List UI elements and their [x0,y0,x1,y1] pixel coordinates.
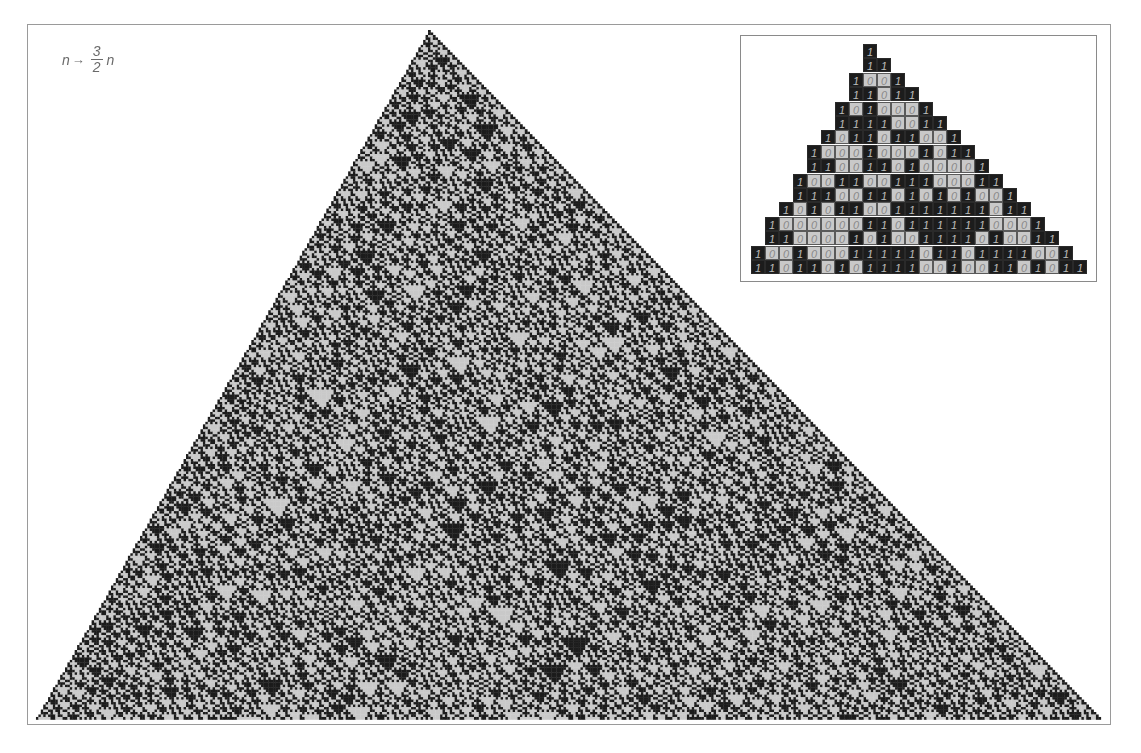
inset-digit-cell: 1 [989,260,1003,274]
inset-digit-cell: 0 [877,202,891,216]
formula-fraction: 3 2 [91,44,103,75]
inset-digit-cell: 1 [905,202,919,216]
inset-digit-cell: 1 [905,188,919,202]
inset-digit-cell: 0 [933,145,947,159]
inset-digit-cell: 0 [863,202,877,216]
inset-digit-cell: 0 [947,188,961,202]
inset-digit-cell: 1 [877,116,891,130]
inset-digit-cell: 1 [891,260,905,274]
inset-digit-cell: 1 [751,260,765,274]
inset-digit-cell: 1 [891,174,905,188]
inset-digit-cell: 1 [933,246,947,260]
inset-digit-cell: 1 [975,202,989,216]
inset-digit-cell: 1 [947,130,961,144]
inset-digit-cell: 0 [905,116,919,130]
inset-digit-cell: 0 [821,145,835,159]
inset-digit-cell: 1 [863,246,877,260]
inset-digit-cell: 0 [933,159,947,173]
inset-digit-cell: 1 [933,217,947,231]
inset-digit-cell: 1 [1003,202,1017,216]
inset-digit-cell: 0 [1045,260,1059,274]
inset-digit-cell: 1 [863,217,877,231]
inset-digit-cell: 1 [975,217,989,231]
inset-digit-cell: 1 [947,145,961,159]
inset-digit-cell: 1 [835,202,849,216]
inset-digit-cell: 0 [961,159,975,173]
inset-digit-cell: 1 [905,130,919,144]
inset-digit-cell: 0 [877,102,891,116]
inset-digit-cell: 1 [877,58,891,72]
inset-digit-cell: 0 [919,159,933,173]
inset-digit-cell: 0 [905,102,919,116]
inset-digit-cell: 0 [1003,217,1017,231]
inset-digit-cell: 1 [779,231,793,245]
inset-digit-cell: 1 [877,260,891,274]
inset-digit-cell: 1 [1073,260,1087,274]
inset-digit-cell: 0 [835,130,849,144]
inset-digit-cell: 1 [779,202,793,216]
inset-digit-cell: 1 [751,246,765,260]
inset-digit-cell: 1 [919,217,933,231]
inset-digit-cell: 0 [1017,231,1031,245]
inset-digit-cell: 1 [989,246,1003,260]
inset-digit-cell: 0 [947,159,961,173]
inset-digit-cell: 1 [1003,260,1017,274]
inset-digit-cell: 1 [1059,260,1073,274]
inset-digit-cell: 0 [961,260,975,274]
inset-digit-cell: 0 [821,260,835,274]
inset-digit-cell: 1 [933,231,947,245]
inset-digit-cell: 1 [947,231,961,245]
inset-digit-cell: 0 [933,174,947,188]
inset-digit-cell: 1 [1031,260,1045,274]
inset-digit-cell: 1 [849,87,863,101]
inset-digit-cell: 0 [891,116,905,130]
inset-digit-cell: 0 [961,246,975,260]
inset-digit-cell: 1 [821,159,835,173]
inset-digit-cell: 0 [891,159,905,173]
inset-digit-cell: 1 [849,73,863,87]
inset-digit-cell: 0 [835,188,849,202]
inset-digit-cell: 0 [863,231,877,245]
inset-digit-cell: 0 [849,145,863,159]
inset-digit-cell: 0 [933,260,947,274]
inset-digit-cell: 1 [975,246,989,260]
inset-digit-cell: 0 [989,188,1003,202]
inset-digit-cell: 1 [1031,217,1045,231]
inset-digit-cell: 1 [765,217,779,231]
inset-digit-cell: 0 [779,246,793,260]
arrow-icon: → [72,52,85,67]
inset-digit-cell: 0 [1045,246,1059,260]
inset-digit-cell: 1 [877,246,891,260]
inset-digit-cell: 0 [807,174,821,188]
inset-digit-cell: 1 [807,159,821,173]
inset-digit-cell: 0 [989,217,1003,231]
inset-digit-cell: 0 [821,231,835,245]
fraction-numerator: 3 [91,44,103,60]
inset-digit-cell: 1 [891,246,905,260]
inset-digit-cell: 0 [1031,246,1045,260]
inset-digit-cell: 1 [849,116,863,130]
inset-digit-cell: 0 [975,188,989,202]
inset-digit-cell: 0 [891,217,905,231]
inset-digit-cell: 1 [891,130,905,144]
inset-digit-cell: 1 [1017,246,1031,260]
inset-digit-cell: 0 [877,73,891,87]
inset-digit-cell: 0 [1017,217,1031,231]
inset-digit-cell: 0 [933,130,947,144]
inset-digit-cell: 1 [961,202,975,216]
inset-digit-cell: 1 [835,260,849,274]
inset-digit-cell: 1 [821,130,835,144]
formula-rhs: n [107,52,115,68]
inset-digit-cell: 1 [961,145,975,159]
inset-digit-cell: 1 [1017,202,1031,216]
inset-digit-cell: 0 [807,231,821,245]
inset-digit-cell: 0 [919,260,933,274]
inset-digit-cell: 0 [779,217,793,231]
inset-digit-cell: 1 [933,188,947,202]
inset-digit-cell: 0 [891,231,905,245]
inset-digit-cell: 0 [891,188,905,202]
inset-digit-cell: 1 [891,73,905,87]
inset-digit-cell: 0 [779,260,793,274]
inset-digit-cell: 1 [905,246,919,260]
inset-digit-cell: 0 [849,159,863,173]
